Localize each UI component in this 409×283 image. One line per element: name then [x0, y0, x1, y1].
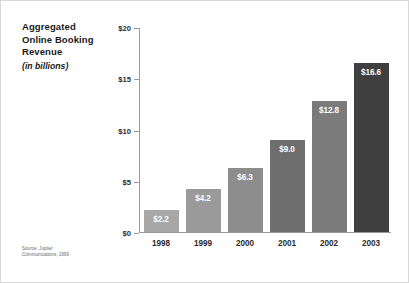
x-axis-label: 2000 — [228, 239, 263, 248]
title-line-3: Revenue — [22, 46, 122, 59]
bar-group-2001[interactable]: $9.02001 — [270, 28, 305, 232]
x-axis-label: 1999 — [186, 239, 221, 248]
x-axis-label: 2002 — [312, 239, 347, 248]
title-line-2: Online Booking — [22, 34, 122, 47]
x-axis-label: 1998 — [144, 239, 179, 248]
title-line-1: Aggregated — [22, 21, 122, 34]
x-axis-label: 2001 — [270, 239, 305, 248]
source-line-2: Communications, 1999 — [22, 252, 117, 258]
bar-group-2000[interactable]: $6.32000 — [228, 28, 263, 232]
y-tick-label: $5 — [123, 177, 131, 186]
bar-series: $2.21998$4.21999$6.32000$9.02001$12.8200… — [140, 28, 391, 232]
x-axis-label: 2003 — [354, 239, 389, 248]
bar-group-2002[interactable]: $12.82002 — [312, 28, 347, 232]
bar[interactable]: $9.0 — [270, 140, 305, 232]
y-tick-label: $15 — [118, 75, 131, 84]
bar[interactable]: $4.2 — [186, 189, 221, 232]
bar-value-label: $4.2 — [186, 194, 221, 203]
y-tick-mark — [134, 182, 139, 183]
y-tick-label: $0 — [123, 229, 131, 238]
bar[interactable]: $2.2 — [144, 210, 179, 232]
bar-group-1999[interactable]: $4.21999 — [186, 28, 221, 232]
bar-value-label: $6.3 — [228, 173, 263, 182]
chart-subtitle: (in billions) — [22, 60, 122, 73]
plot-area: $0$5$10$15$20 $2.21998$4.21999$6.32000$9… — [139, 28, 391, 233]
bar-value-label: $9.0 — [270, 145, 305, 154]
y-tick-mark — [134, 28, 139, 29]
page-title: Aggregated Online Booking Revenue (in bi… — [22, 21, 122, 73]
y-tick-mark — [134, 233, 139, 234]
bar[interactable]: $6.3 — [228, 168, 263, 232]
y-tick-mark — [134, 79, 139, 80]
bar-value-label: $16.6 — [354, 68, 389, 77]
y-tick-label: $10 — [118, 126, 131, 135]
bar-value-label: $12.8 — [312, 106, 347, 115]
bar[interactable]: $12.8 — [312, 101, 347, 232]
bar-group-2003[interactable]: $16.62003 — [354, 28, 389, 232]
bar-group-1998[interactable]: $2.21998 — [144, 28, 179, 232]
chart-figure: Aggregated Online Booking Revenue (in bi… — [0, 0, 409, 283]
bar[interactable]: $16.6 — [354, 63, 389, 232]
source-note: Source: Jupiter Communications, 1999 — [22, 246, 117, 258]
y-tick-mark — [134, 131, 139, 132]
x-axis-line — [139, 232, 391, 233]
bar-value-label: $2.2 — [144, 215, 179, 224]
y-tick-label: $20 — [118, 24, 131, 33]
